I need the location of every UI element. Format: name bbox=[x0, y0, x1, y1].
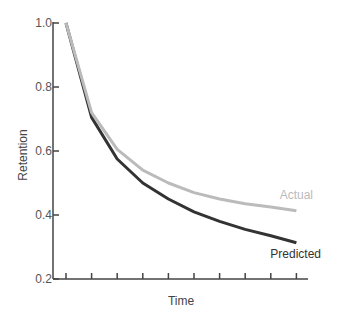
series-lines bbox=[66, 23, 296, 243]
series-label-predicted: Predicted bbox=[270, 247, 321, 261]
y-axis-ticks: 1.00.80.60.40.2 bbox=[35, 16, 59, 286]
series-line-actual bbox=[66, 23, 296, 211]
x-axis-ticks bbox=[66, 273, 296, 279]
y-tick-label: 0.8 bbox=[35, 80, 52, 94]
series-line-predicted bbox=[66, 23, 296, 243]
y-tick-label: 0.4 bbox=[35, 208, 52, 222]
retention-line-chart: 1.00.80.60.40.2 Retention Time Actual Pr… bbox=[0, 0, 339, 317]
y-tick-label: 0.2 bbox=[35, 272, 52, 286]
y-tick-label: 0.6 bbox=[35, 144, 52, 158]
y-axis-title: Retention bbox=[16, 129, 30, 180]
x-axis-title: Time bbox=[168, 294, 195, 308]
y-tick-label: 1.0 bbox=[35, 16, 52, 30]
series-label-actual: Actual bbox=[280, 188, 313, 202]
